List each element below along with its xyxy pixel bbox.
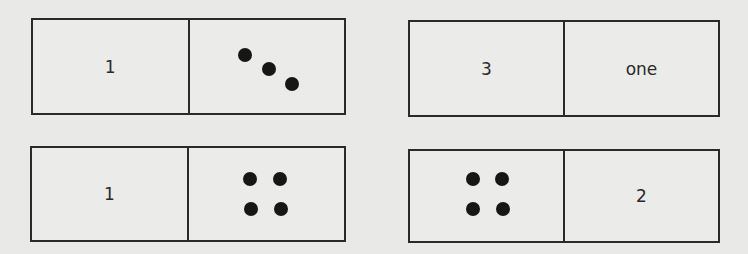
domino-bottom-right: 2 xyxy=(408,149,720,243)
dot-icon xyxy=(496,202,510,216)
domino-top-left-left-half: 1 xyxy=(33,20,188,113)
domino-bottom-left: 1 xyxy=(30,146,346,242)
word-label: one xyxy=(626,59,658,79)
domino-top-left-right-half xyxy=(188,20,345,113)
number-label: 2 xyxy=(636,186,647,206)
domino-bottom-right-right-half: 2 xyxy=(563,151,718,241)
dot-icon xyxy=(244,202,258,216)
number-label: 3 xyxy=(481,59,492,79)
domino-top-left: 1 xyxy=(31,18,346,115)
dot-icon xyxy=(238,48,252,62)
dot-icon xyxy=(273,172,287,186)
dot-icon xyxy=(285,77,299,91)
dot-icon xyxy=(466,202,480,216)
domino-top-right: 3 one xyxy=(408,20,720,117)
number-label: 1 xyxy=(104,184,115,204)
dot-icon xyxy=(262,62,276,76)
dot-icon xyxy=(466,172,480,186)
domino-bottom-right-left-half xyxy=(410,151,563,241)
dot-icon xyxy=(495,172,509,186)
dot-icon xyxy=(274,202,288,216)
domino-top-right-right-half: one xyxy=(563,22,718,115)
number-label: 1 xyxy=(105,57,116,77)
domino-bottom-left-left-half: 1 xyxy=(32,148,187,240)
domino-bottom-left-right-half xyxy=(187,148,344,240)
domino-top-right-left-half: 3 xyxy=(410,22,563,115)
dot-icon xyxy=(243,172,257,186)
